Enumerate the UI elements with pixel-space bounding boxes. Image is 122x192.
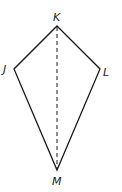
- vertex-label-j: J: [1, 63, 6, 76]
- kite-diagram: K J L M: [0, 0, 122, 192]
- vertex-label-k: K: [53, 11, 61, 24]
- vertex-label-m: M: [52, 175, 62, 188]
- vertex-label-l: L: [103, 66, 109, 79]
